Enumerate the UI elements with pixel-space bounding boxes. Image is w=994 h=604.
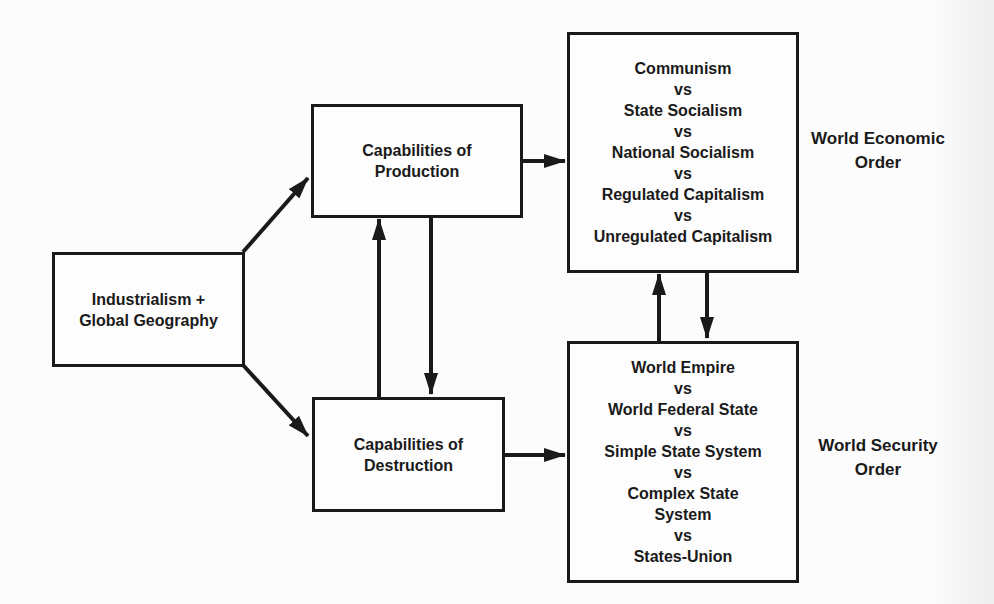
node-economic-options: Communism vs State Socialism vs National…: [567, 32, 799, 273]
vs-text: vs: [674, 79, 692, 100]
node-security-options: World Empire vs World Federal State vs S…: [567, 341, 799, 583]
option-text: Unregulated Capitalism: [594, 226, 773, 247]
label-text: World Economic: [808, 127, 948, 151]
node-capabilities-destruction: Capabilities of Destruction: [312, 397, 505, 512]
option-text: System: [655, 504, 712, 525]
option-text: State Socialism: [624, 100, 742, 121]
label-world-economic-order: World Economic Order: [808, 127, 948, 175]
vs-text: vs: [674, 462, 692, 483]
node-industrialism-geography: Industrialism + Global Geography: [52, 252, 245, 367]
option-text: World Federal State: [608, 399, 758, 420]
option-text: World Empire: [631, 357, 735, 378]
label-world-security-order: World Security Order: [808, 434, 948, 482]
option-text: Simple State System: [604, 441, 761, 462]
arrow-source-to-production: [243, 178, 308, 252]
node-text: Capabilities of: [354, 434, 463, 455]
vs-text: vs: [674, 420, 692, 441]
option-text: National Socialism: [612, 142, 754, 163]
option-text: Regulated Capitalism: [602, 184, 765, 205]
node-text: Industrialism +: [92, 289, 205, 310]
label-text: Order: [808, 151, 948, 175]
node-capabilities-production: Capabilities of Production: [311, 104, 523, 218]
node-text: Capabilities of: [362, 140, 471, 161]
node-text: Production: [375, 161, 459, 182]
node-text: Global Geography: [79, 310, 218, 331]
node-text: Destruction: [364, 455, 453, 476]
vs-text: vs: [674, 121, 692, 142]
vs-text: vs: [674, 205, 692, 226]
vs-text: vs: [674, 378, 692, 399]
arrow-source-to-destruction: [243, 365, 308, 436]
vs-text: vs: [674, 163, 692, 184]
option-text: States-Union: [634, 546, 733, 567]
option-text: Communism: [635, 58, 732, 79]
label-text: Order: [808, 458, 948, 482]
option-text: Complex State: [627, 483, 738, 504]
vs-text: vs: [674, 525, 692, 546]
label-text: World Security: [808, 434, 948, 458]
